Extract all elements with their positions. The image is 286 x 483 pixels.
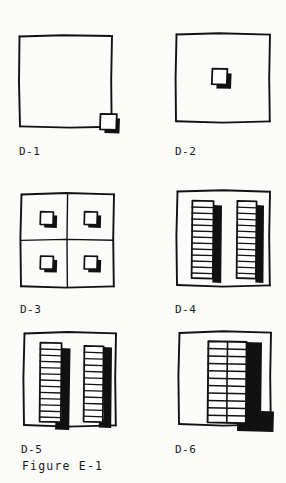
frame-top-edge [20,35,113,36]
quadrant-block-bottom-left-face [40,256,53,269]
slab-tower-left-body [40,343,62,423]
frame-left-edge [23,334,24,426]
center-block-face [212,69,228,85]
quadrant-block-top-right [84,212,101,228]
quadrant-block-bottom-left [40,256,57,273]
figure-caption: Figure E-1 [22,459,103,473]
panel-label-d-5: D-5 [21,443,42,456]
corner-block-face [100,114,117,130]
panel-d-5-drawing [0,298,143,438]
grid-line-vertical [67,194,68,287]
corner-block [100,114,120,134]
panel-label-d-6: D-6 [175,443,196,456]
panel-d-4-drawing [157,158,286,298]
frame-right-edge [115,333,116,425]
quadrant-block-bottom-right-face [84,256,97,269]
slab-tower-right [237,201,264,283]
quadrant-block-bottom-right [84,256,101,273]
frame-right-edge [111,36,112,120]
center-block [212,69,232,89]
quadrant-block-top-right-face [84,212,97,225]
panel-d-6: D-6 [157,298,286,438]
panel-d-6-drawing [157,298,286,438]
frame-left-edge [19,37,20,127]
panel-label-d-2: D-2 [175,145,196,158]
slab-tower-left [192,201,222,283]
panel-d-3-drawing [0,158,143,298]
panel-d-4: D-4 [157,158,286,298]
double-bay-tower [208,341,274,432]
frame-left-edge [178,333,179,424]
panel-d-5: D-5 [0,298,143,438]
frame-right-edge [269,35,270,122]
frame-left-edge [176,192,177,286]
figure-sheet: D-1 D-2 [0,0,286,483]
quadrant-block-top-left [40,212,57,228]
panel-d-1: D-1 [0,0,143,140]
panel-d-3: D-3 [0,158,143,298]
panel-d-2-drawing [157,0,286,140]
frame-bottom-edge [20,126,112,127]
double-bay-tower-bay-divider [227,342,228,423]
slab-tower-right [84,346,112,428]
frame-bottom-edge [177,285,270,287]
panel-label-d-1: D-1 [19,145,40,158]
frame-top-edge [178,190,271,192]
frame-right-edge [269,192,270,286]
frame-top-edge [177,33,271,34]
panel-d-2: D-2 [157,0,286,140]
frame-left-edge [176,35,177,122]
frame-bottom-edge [176,121,270,122]
slab-tower-left [40,343,71,430]
panel-d-1-drawing [0,0,143,140]
frame-right-edge [270,333,271,425]
frame-top-edge [25,332,117,334]
quadrant-block-top-left-face [40,212,53,225]
frame-top-edge [180,331,272,333]
